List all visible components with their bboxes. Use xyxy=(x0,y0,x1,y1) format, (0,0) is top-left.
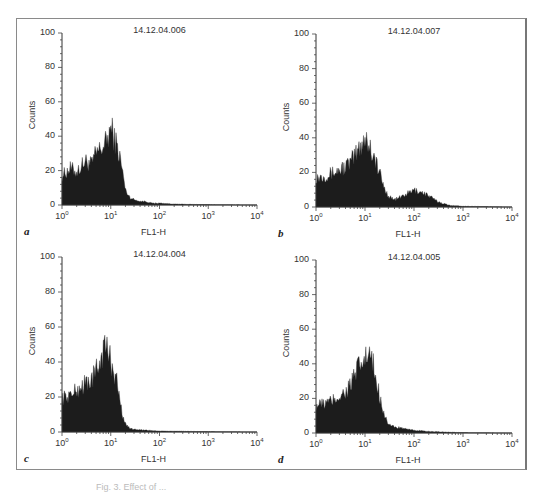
figure-frame xyxy=(16,18,527,470)
x-tick-label: 104 xyxy=(250,210,263,221)
x-tick-label: 100 xyxy=(309,212,322,223)
x-axis-label: FL1-H xyxy=(141,454,166,464)
panel-letter: a xyxy=(24,225,30,237)
x-tick-label: 103 xyxy=(202,210,215,221)
x-tick-label: 104 xyxy=(250,437,263,448)
y-tick-label: 0 xyxy=(31,426,55,436)
y-tick-label: 60 xyxy=(31,96,55,106)
y-tick-label: 60 xyxy=(285,323,309,333)
panel-letter: d xyxy=(278,453,284,465)
panel-letter: c xyxy=(24,452,29,464)
x-tick-label: 102 xyxy=(153,210,166,221)
y-tick-label: 40 xyxy=(285,358,309,368)
panel-letter: b xyxy=(278,227,284,239)
y-tick-label: 20 xyxy=(31,391,55,401)
figure-caption: Fig. 3. Effect of ... xyxy=(96,482,166,492)
panel-title: 14.12.04.006 xyxy=(133,25,186,35)
y-tick-label: 40 xyxy=(285,132,309,142)
x-tick-label: 101 xyxy=(358,438,371,449)
x-tick-label: 103 xyxy=(456,438,469,449)
x-tick-label: 100 xyxy=(55,210,68,221)
y-tick-label: 80 xyxy=(31,61,55,71)
x-tick-label: 100 xyxy=(55,437,68,448)
y-tick-label: 80 xyxy=(285,289,309,299)
y-tick-label: 20 xyxy=(285,166,309,176)
x-tick-label: 102 xyxy=(153,437,166,448)
y-tick-label: 80 xyxy=(285,63,309,73)
x-axis-label: FL1-H xyxy=(141,227,166,237)
panel-title: 14.12.04.007 xyxy=(388,26,441,36)
y-tick-label: 80 xyxy=(31,286,55,296)
y-tick-label: 100 xyxy=(285,254,309,264)
y-tick-label: 100 xyxy=(31,27,55,37)
x-tick-label: 101 xyxy=(104,210,117,221)
x-tick-label: 101 xyxy=(358,212,371,223)
x-tick-label: 103 xyxy=(202,437,215,448)
y-tick-label: 100 xyxy=(285,28,309,38)
y-tick-label: 40 xyxy=(31,130,55,140)
y-tick-label: 60 xyxy=(285,97,309,107)
x-tick-label: 104 xyxy=(505,212,518,223)
y-tick-label: 0 xyxy=(285,427,309,437)
x-tick-label: 101 xyxy=(104,437,117,448)
x-axis-label: FL1-H xyxy=(395,455,420,465)
x-tick-label: 100 xyxy=(309,438,322,449)
y-tick-label: 20 xyxy=(285,392,309,402)
x-tick-label: 103 xyxy=(456,212,469,223)
y-tick-label: 100 xyxy=(31,251,55,261)
x-tick-label: 104 xyxy=(505,438,518,449)
y-tick-label: 40 xyxy=(31,356,55,366)
x-tick-label: 102 xyxy=(407,212,420,223)
y-tick-label: 60 xyxy=(31,321,55,331)
panel-title: 14.12.04.005 xyxy=(388,252,441,262)
x-tick-label: 102 xyxy=(407,438,420,449)
y-tick-label: 0 xyxy=(31,199,55,209)
panel-title: 14.12.04.004 xyxy=(133,249,186,259)
y-tick-label: 20 xyxy=(31,165,55,175)
x-axis-label: FL1-H xyxy=(395,229,420,239)
y-tick-label: 0 xyxy=(285,201,309,211)
